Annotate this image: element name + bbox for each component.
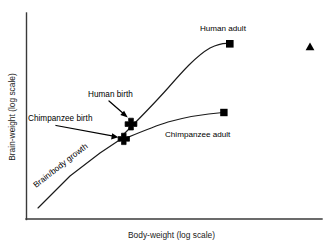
y-axis-title: Brain-weight (log scale) <box>7 73 17 161</box>
human-growth-curve <box>122 43 229 136</box>
chimpanzee-birth-arrow-line <box>56 126 114 137</box>
chimpanzee-adult-label: Chimpanzee adult <box>165 130 231 139</box>
brain-body-growth-label: Brain/body growth <box>32 141 90 189</box>
label-group: Human birth Chimpanzee birth Human adult… <box>7 24 247 240</box>
x-axis-title: Body-weight (log scale) <box>128 230 215 240</box>
chimpanzee-adult-marker <box>220 109 227 116</box>
chimpanzee-birth-label: Chimpanzee birth <box>28 114 93 123</box>
human-birth-marker <box>125 118 137 130</box>
human-birth-arrow-line <box>109 101 125 115</box>
human-adult-marker <box>226 40 234 48</box>
outlier-triangle-marker <box>306 43 315 51</box>
human-birth-label: Human birth <box>88 90 133 99</box>
human-adult-label: Human adult <box>200 24 247 33</box>
chart-canvas: Human birth Chimpanzee birth Human adult… <box>0 0 331 243</box>
chimpanzee-birth-arrow-head <box>111 133 118 139</box>
brain-body-growth-figure: Human birth Chimpanzee birth Human adult… <box>0 0 331 243</box>
chimpanzee-birth-marker <box>118 133 129 144</box>
